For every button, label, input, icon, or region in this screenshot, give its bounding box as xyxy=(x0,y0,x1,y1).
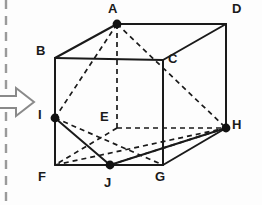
geometry-figure-canvas: A D B C I E H F J G xyxy=(0,0,262,205)
vertex-dot-A xyxy=(113,20,122,29)
edge-B-C xyxy=(55,58,163,60)
vertex-label-G: G xyxy=(155,170,165,183)
vertex-label-H: H xyxy=(232,118,241,131)
cut-A-H xyxy=(117,24,226,128)
vertex-label-D: D xyxy=(232,2,241,15)
visible-edges xyxy=(55,24,226,165)
vertex-label-A: A xyxy=(108,2,117,15)
cut-I-J xyxy=(55,118,110,165)
vertex-label-C: C xyxy=(168,52,177,65)
edge-G-H xyxy=(163,128,226,165)
vertex-label-I: I xyxy=(38,108,42,121)
vertex-label-B: B xyxy=(36,44,45,57)
vertex-label-E: E xyxy=(100,110,109,123)
vertex-dots xyxy=(51,20,231,170)
hidden-edge-E-F xyxy=(55,128,117,165)
edge-A-B xyxy=(55,24,117,58)
cut-J-H xyxy=(110,128,226,165)
right-arrow-marker xyxy=(0,88,34,116)
cut-F-J-upper xyxy=(55,128,226,165)
vertex-label-F: F xyxy=(38,170,46,183)
vertex-dot-H xyxy=(222,124,231,133)
cut-I-F-diag xyxy=(55,118,163,165)
vertex-dot-J xyxy=(106,161,115,170)
vertex-dot-I xyxy=(51,114,60,123)
cut-A-I xyxy=(55,24,117,118)
vertex-label-J: J xyxy=(104,176,111,189)
